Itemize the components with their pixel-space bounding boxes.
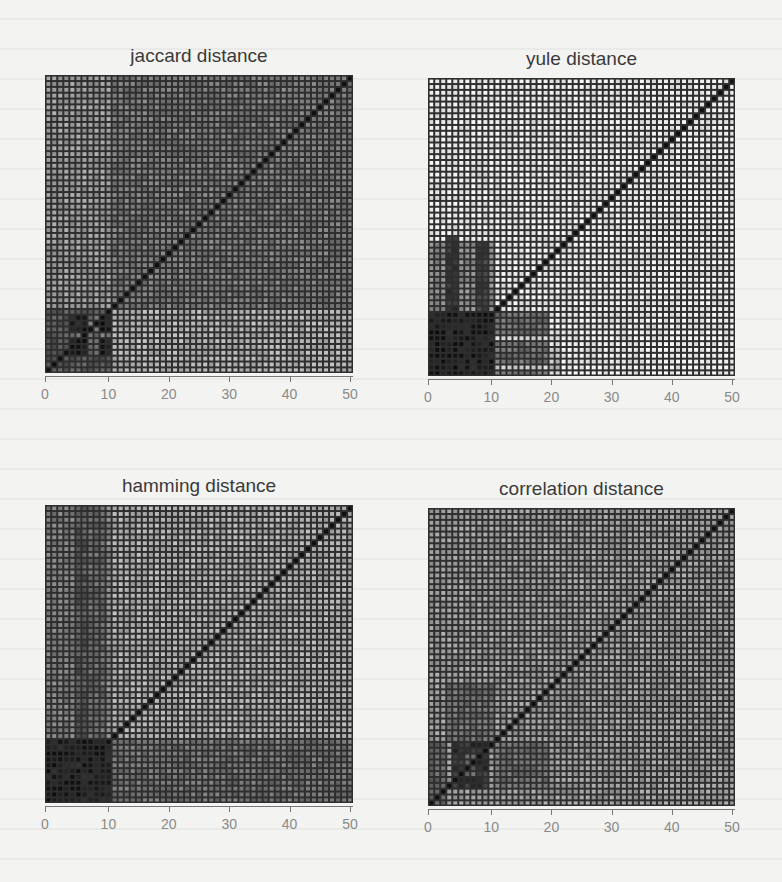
x-tick-mark bbox=[672, 379, 673, 385]
x-tick-label: 10 bbox=[101, 386, 117, 402]
x-axis-line bbox=[45, 376, 353, 377]
x-axis-line bbox=[428, 809, 735, 810]
x-tick-label: 10 bbox=[101, 816, 117, 832]
x-tick-label: 20 bbox=[544, 389, 560, 405]
yule-distance-heatmap bbox=[428, 78, 735, 376]
jaccard-distance-panel: jaccard distance 01020304050 bbox=[45, 75, 353, 373]
x-tick-label: 20 bbox=[544, 819, 560, 835]
x-tick-label: 40 bbox=[282, 816, 298, 832]
x-tick-label: 0 bbox=[41, 386, 49, 402]
jaccard-x-axis: 01020304050 bbox=[45, 376, 353, 406]
yule-distance-panel: yule distance 01020304050 bbox=[428, 78, 735, 376]
x-tick-mark bbox=[108, 806, 109, 812]
x-tick-mark bbox=[45, 376, 46, 382]
jaccard-distance-heatmap bbox=[45, 75, 353, 373]
x-tick-mark bbox=[428, 809, 429, 815]
x-tick-label: 0 bbox=[424, 389, 432, 405]
correlation-distance-panel: correlation distance 01020304050 bbox=[428, 508, 735, 806]
x-tick-mark bbox=[491, 809, 492, 815]
x-tick-mark bbox=[732, 809, 733, 815]
x-tick-mark bbox=[108, 376, 109, 382]
correlation-x-axis: 01020304050 bbox=[428, 809, 735, 839]
hamming-distance-panel: hamming distance 01020304050 bbox=[45, 505, 353, 803]
x-tick-mark bbox=[551, 809, 552, 815]
hamming-distance-heatmap bbox=[45, 505, 353, 803]
x-tick-mark bbox=[229, 806, 230, 812]
x-tick-label: 30 bbox=[604, 819, 620, 835]
x-tick-label: 40 bbox=[664, 389, 680, 405]
x-tick-label: 30 bbox=[604, 389, 620, 405]
x-tick-mark bbox=[672, 809, 673, 815]
x-axis-line bbox=[45, 806, 353, 807]
x-tick-mark bbox=[350, 806, 351, 812]
x-tick-label: 30 bbox=[221, 816, 237, 832]
x-tick-label: 50 bbox=[342, 816, 358, 832]
x-tick-mark bbox=[45, 806, 46, 812]
x-tick-label: 50 bbox=[342, 386, 358, 402]
hamming-distance-title: hamming distance bbox=[45, 475, 353, 497]
x-tick-mark bbox=[290, 376, 291, 382]
correlation-distance-heatmap bbox=[428, 508, 735, 806]
x-tick-label: 40 bbox=[664, 819, 680, 835]
x-tick-label: 20 bbox=[161, 386, 177, 402]
x-tick-label: 0 bbox=[424, 819, 432, 835]
hamming-x-axis: 01020304050 bbox=[45, 806, 353, 836]
x-tick-label: 40 bbox=[282, 386, 298, 402]
x-tick-mark bbox=[229, 376, 230, 382]
yule-distance-title: yule distance bbox=[428, 48, 735, 70]
x-tick-mark bbox=[290, 806, 291, 812]
x-axis-line bbox=[428, 379, 735, 380]
x-tick-label: 10 bbox=[483, 389, 499, 405]
x-tick-mark bbox=[428, 379, 429, 385]
yule-x-axis: 01020304050 bbox=[428, 379, 735, 409]
x-tick-label: 10 bbox=[483, 819, 499, 835]
x-tick-label: 50 bbox=[724, 389, 740, 405]
jaccard-distance-title: jaccard distance bbox=[45, 45, 353, 67]
x-tick-label: 50 bbox=[724, 819, 740, 835]
x-tick-mark bbox=[551, 379, 552, 385]
x-tick-mark bbox=[732, 379, 733, 385]
x-tick-mark bbox=[350, 376, 351, 382]
x-tick-mark bbox=[169, 376, 170, 382]
x-tick-mark bbox=[612, 379, 613, 385]
x-tick-mark bbox=[612, 809, 613, 815]
x-tick-label: 20 bbox=[161, 816, 177, 832]
correlation-distance-title: correlation distance bbox=[428, 478, 735, 500]
x-tick-label: 0 bbox=[41, 816, 49, 832]
x-tick-mark bbox=[169, 806, 170, 812]
x-tick-label: 30 bbox=[221, 386, 237, 402]
x-tick-mark bbox=[491, 379, 492, 385]
